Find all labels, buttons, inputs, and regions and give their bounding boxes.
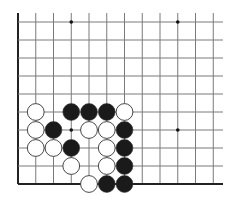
white-stone[interactable] — [27, 122, 44, 139]
black-stone[interactable] — [98, 104, 115, 121]
black-stone[interactable] — [116, 158, 133, 175]
star-point-icon — [176, 20, 180, 24]
black-stone[interactable] — [63, 140, 80, 157]
white-stone[interactable] — [45, 140, 62, 157]
black-stone[interactable] — [81, 104, 98, 121]
black-stone[interactable] — [116, 176, 133, 193]
star-point-icon — [69, 20, 73, 24]
white-stone[interactable] — [63, 158, 80, 175]
star-point-icon — [69, 128, 73, 132]
white-stone[interactable] — [116, 104, 133, 121]
black-stone[interactable] — [45, 122, 62, 139]
white-stone[interactable] — [98, 122, 115, 139]
star-point-icon — [176, 128, 180, 132]
black-stone[interactable] — [116, 140, 133, 157]
black-stone[interactable] — [98, 176, 115, 193]
white-stone[interactable] — [98, 158, 115, 175]
go-board — [0, 0, 240, 203]
white-stone[interactable] — [98, 140, 115, 157]
black-stone[interactable] — [63, 104, 80, 121]
white-stone[interactable] — [27, 140, 44, 157]
black-stone[interactable] — [116, 122, 133, 139]
white-stone[interactable] — [81, 176, 98, 193]
white-stone[interactable] — [27, 104, 44, 121]
white-stone[interactable] — [81, 122, 98, 139]
